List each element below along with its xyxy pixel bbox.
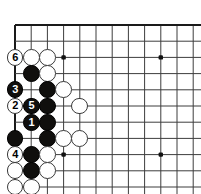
move-number-label: 4 xyxy=(12,149,18,160)
move-number-label: 1 xyxy=(28,117,34,128)
stone-white xyxy=(23,179,40,194)
stone-white xyxy=(55,130,72,147)
stone-black xyxy=(7,130,24,147)
stone-white xyxy=(39,65,56,82)
stone-white xyxy=(39,162,56,179)
star-point xyxy=(61,55,65,59)
stone-white xyxy=(39,146,56,163)
stone-white xyxy=(23,49,40,66)
stone-white-move-6: 6 xyxy=(7,49,24,66)
star-point xyxy=(159,55,163,59)
go-board-diagram: 632514 xyxy=(0,0,201,194)
stone-black xyxy=(39,98,56,115)
star-point xyxy=(159,152,163,156)
stone-white xyxy=(7,179,24,194)
move-number-label: 2 xyxy=(12,100,18,111)
move-number-label: 5 xyxy=(28,100,34,111)
stone-white xyxy=(71,130,88,147)
stone-black xyxy=(39,130,56,147)
stone-black xyxy=(23,65,40,82)
stone-black xyxy=(39,114,56,131)
star-point xyxy=(61,152,65,156)
stone-black-move-1: 1 xyxy=(23,114,40,131)
stone-white xyxy=(39,49,56,66)
stone-black xyxy=(39,81,56,98)
move-number-label: 3 xyxy=(12,84,18,95)
move-number-label: 6 xyxy=(12,52,18,63)
stone-black-move-5: 5 xyxy=(23,98,40,115)
stone-black xyxy=(23,162,40,179)
stone-black xyxy=(23,146,40,163)
